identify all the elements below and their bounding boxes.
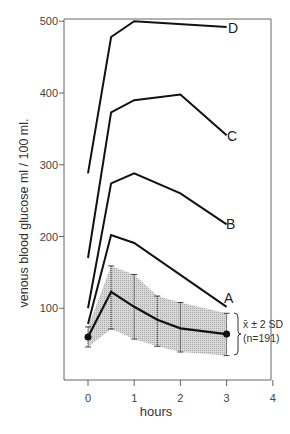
band-annotation-line1: x̄ ± 2 SD	[243, 318, 284, 330]
y-tick-label: 200	[40, 231, 58, 243]
brace-icon	[234, 313, 241, 355]
mean-end-dot	[223, 331, 230, 338]
x-tick-label: 4	[270, 392, 276, 404]
x-tick-label: 3	[224, 392, 230, 404]
band-annotation-line2: (n=191)	[243, 332, 279, 344]
series-line-c	[88, 94, 227, 258]
series-label-c: C	[227, 128, 237, 144]
y-tick-label: 400	[40, 87, 58, 99]
series-label-d: D	[228, 20, 238, 36]
y-axis-label: venous blood glucose ml / 100 ml.	[17, 119, 31, 308]
x-tick-label: 0	[85, 392, 91, 404]
series-label-a: A	[224, 290, 234, 306]
mean-start-dot	[85, 333, 92, 340]
series-label-b: B	[226, 216, 235, 232]
x-tick-label: 1	[131, 392, 137, 404]
y-tick-label: 300	[40, 159, 58, 171]
y-tick-label: 100	[40, 302, 58, 314]
glucose-tolerance-chart: 10020030040050001234 venous blood glucos…	[0, 0, 290, 434]
x-tick-label: 2	[177, 392, 183, 404]
y-tick-label: 500	[40, 15, 58, 27]
x-axis-label: hours	[140, 404, 173, 419]
